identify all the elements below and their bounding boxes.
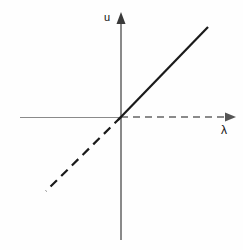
arrow-up-icon [117, 12, 126, 24]
vertical-axis-label: u [104, 12, 110, 23]
arrow-right-icon [225, 113, 236, 122]
bifurcation-diagram-figure: u λ [0, 0, 243, 250]
unstable-branch-line [46, 117, 121, 191]
horizontal-axis-label: λ [221, 124, 227, 136]
plot-canvas [0, 0, 243, 250]
stable-branch-line [118, 27, 208, 120]
